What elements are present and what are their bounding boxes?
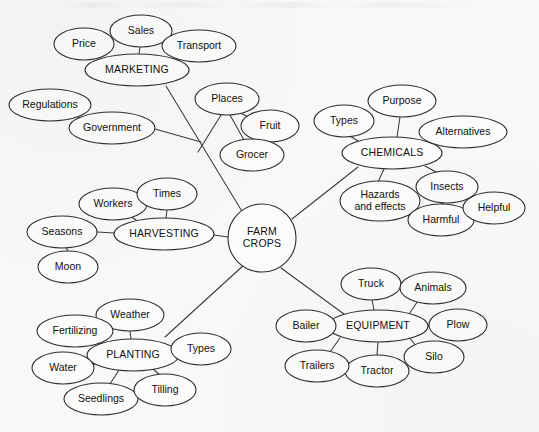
edge-chemicals-to-purpose [397,117,400,137]
node-label-seasons: Seasons [42,225,83,237]
nodes-layer: MARKETINGSalesPriceTransportRegulationsG… [9,15,525,415]
node-seasons[interactable]: Seasons [27,216,97,248]
node-places[interactable]: Places [195,83,259,115]
node-marketing[interactable]: MARKETING [85,54,189,86]
edge-harvesting-to-times [166,210,167,218]
edge-equipment-to-tractor [377,342,378,355]
node-label-times: Times [153,187,181,199]
node-label-farm-crops: FARMCROPS [243,225,281,249]
edge-government-to-marketing-line [155,129,201,142]
node-label-harmful: Harmful [423,213,460,225]
mind-map-canvas: MARKETINGSalesPriceTransportRegulationsG… [0,0,539,432]
node-helpful[interactable]: Helpful [463,192,525,224]
node-fertilizing[interactable]: Fertilizing [37,315,113,347]
node-times[interactable]: Times [137,178,197,210]
edge-farm-crops-to-harvesting [214,235,228,237]
node-label-marketing: MARKETING [105,63,169,75]
edge-marketing-to-sales [139,47,140,54]
node-label-grocer: Grocer [236,148,269,160]
node-hazards[interactable]: Hazardsand effects [340,181,420,221]
node-label-regulations: Regulations [22,98,77,110]
node-label-weather: Weather [110,308,150,320]
node-alternatives[interactable]: Alternatives [419,116,507,148]
node-label-planting: PLANTING [106,348,160,360]
node-label-fruit: Fruit [260,119,281,131]
node-farm-crops[interactable]: FARMCROPS [228,204,296,272]
node-tractor[interactable]: Tractor [345,355,409,387]
node-label-purpose: Purpose [382,94,421,106]
node-label-plow: Plow [447,318,470,330]
edge-equipment-to-trailers [330,338,340,352]
node-animals[interactable]: Animals [400,272,466,304]
node-trailers[interactable]: Trailers [285,350,349,382]
node-grocer[interactable]: Grocer [220,139,284,171]
node-moon[interactable]: Moon [38,251,98,283]
node-label-truck: Truck [358,277,385,289]
node-equipment[interactable]: EQUIPMENT [328,310,428,342]
node-label-silo: Silo [425,350,443,362]
node-seedlings[interactable]: Seedlings [64,383,138,415]
edge-farm-crops-to-planting [165,264,245,337]
node-label-types-chem: Types [330,114,358,126]
node-label-sales: Sales [128,24,154,36]
node-label-workers: Workers [94,197,133,209]
node-transport[interactable]: Transport [162,30,236,62]
node-label-places: Places [211,92,243,104]
node-plow[interactable]: Plow [429,309,487,341]
node-truck[interactable]: Truck [341,268,401,300]
edge-equipment-to-animals [409,301,418,314]
node-label-trailers: Trailers [300,359,335,371]
node-label-equipment: EQUIPMENT [346,319,410,331]
node-label-helpful: Helpful [478,201,511,213]
node-label-tilling: Tilling [151,383,178,395]
node-planting[interactable]: PLANTING [87,339,179,371]
node-label-tractor: Tractor [361,364,394,376]
edge-planting-to-seedlings [110,370,119,384]
edge-equipment-to-truck [372,300,374,310]
node-label-hazards: Hazardsand effects [354,188,405,212]
edge-chemicals-to-hazards [378,169,384,182]
node-types-chem[interactable]: Types [314,105,374,137]
node-label-animals: Animals [414,281,451,293]
node-purpose[interactable]: Purpose [368,85,436,117]
mind-map-svg: MARKETINGSalesPriceTransportRegulationsG… [0,0,539,432]
edge-planting-to-weather [130,331,131,339]
node-tilling[interactable]: Tilling [134,374,196,406]
node-bailer[interactable]: Bailer [276,310,336,342]
node-label-price: Price [72,37,96,49]
edge-farm-crops-to-equipment [281,268,348,317]
node-label-fertilizing: Fertilizing [53,324,98,336]
node-label-seedlings: Seedlings [78,392,124,404]
node-silo[interactable]: Silo [404,341,464,373]
node-water[interactable]: Water [32,352,94,384]
node-label-transport: Transport [177,39,222,51]
node-label-chemicals: CHEMICALS [361,146,424,158]
node-label-moon: Moon [55,260,81,272]
node-fruit[interactable]: Fruit [241,110,299,142]
node-harvesting[interactable]: HARVESTING [114,218,214,250]
node-label-government: Government [83,121,141,133]
node-label-insects: Insects [430,180,463,192]
node-label-types-plant: Types [187,342,215,354]
node-label-alternatives: Alternatives [436,125,491,137]
node-government[interactable]: Government [69,112,155,144]
node-price[interactable]: Price [54,28,114,60]
node-label-bailer: Bailer [293,319,320,331]
node-regulations[interactable]: Regulations [9,89,91,121]
node-label-harvesting: HARVESTING [129,227,199,239]
edge-places-to-center-line [198,115,221,152]
edge-harvesting-to-seasons [97,232,114,233]
node-types-plant[interactable]: Types [171,333,231,365]
node-label-water: Water [49,361,77,373]
